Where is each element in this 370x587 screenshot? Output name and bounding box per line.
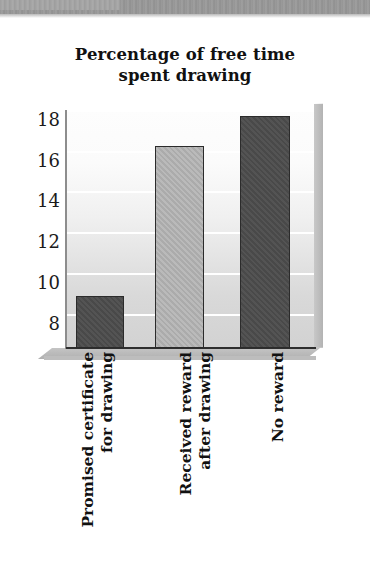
y-axis-line (65, 110, 67, 349)
category-label-promised-certificate: Promised certificate for drawing (78, 352, 116, 584)
x-axis-category-labels: Promised certificate for drawing Receive… (0, 352, 370, 587)
bar-promised-certificate (76, 296, 124, 348)
plot-right-wall (314, 104, 323, 348)
gridline (66, 110, 314, 112)
y-tick-label: 10 (14, 274, 60, 292)
category-label-no-reward: No reward (268, 352, 287, 584)
y-tick-label: 12 (14, 233, 60, 251)
bar-no-reward (240, 116, 290, 348)
y-tick-label: 8 (14, 315, 60, 333)
bar-received-reward (155, 146, 204, 348)
y-tick-label: 16 (14, 152, 60, 170)
y-tick-label: 14 (14, 192, 60, 210)
y-tick-label: 18 (14, 111, 60, 129)
chart-figure: 18 16 14 12 10 8 Promised certificate fo… (0, 0, 370, 587)
category-label-received-reward: Received reward after drawing (176, 352, 214, 584)
